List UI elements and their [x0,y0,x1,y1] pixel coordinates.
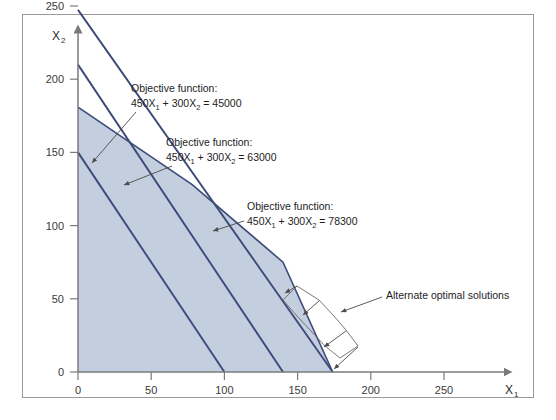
obj63000-c: = 63000 [235,151,276,163]
y-tick-label-250: 250 [46,0,64,12]
obj63000-line1: Objective function: [166,136,252,148]
x-axis-title-main: X [505,383,513,397]
figure-container: 0 50 100 150 200 250 0 50 100 150 200 25… [0,0,556,420]
obj45000-c: = 45000 [200,97,241,109]
obj78300-c: = 78300 [316,215,357,227]
y-axis-title-main: X [52,29,60,43]
y-tick-label-0: 0 [58,366,64,378]
x-tick-label-200: 200 [362,384,380,396]
obj78300-line1: Objective function: [247,200,333,212]
alternate-arrow-2 [303,301,319,315]
linear-programming-chart: 0 50 100 150 200 250 0 50 100 150 200 25… [0,0,556,420]
alternate-arrow-3 [324,331,346,347]
x-axis-title-sub: 1 [514,390,519,399]
y-tick-label-50: 50 [52,293,64,305]
y-tick-label-200: 200 [46,73,64,85]
obj78300-a: 450X [247,215,272,227]
x-tick-label-150: 150 [288,384,306,396]
obj45000-line1: Objective function: [131,82,217,94]
y-axis-title: X 2 [52,29,66,45]
y-tick-label-150: 150 [46,146,64,158]
alternate-optimal-label: Alternate optimal solutions [386,289,509,301]
x-tick-label-50: 50 [145,384,157,396]
obj63000-b: + 300X [195,151,232,163]
x-tick-label-250: 250 [435,384,453,396]
x-tick-label-100: 100 [215,384,233,396]
y-tick-label-100: 100 [46,220,64,232]
obj78300-line2: 450X1 + 300X2 = 78300 [247,215,358,230]
obj45000-b: + 300X [160,97,197,109]
obj45000-a: 450X [131,97,156,109]
obj78300-b: + 300X [276,215,313,227]
x-axis-title: X 1 [505,383,519,399]
obj63000-a: 450X [166,151,191,163]
obj63000-line2: 450X1 + 300X2 = 63000 [166,151,277,166]
alternate-label-leader [341,297,382,312]
y-axis-title-sub: 2 [61,36,66,45]
x-tick-label-0: 0 [75,384,81,396]
alternate-arrow-4 [334,347,358,369]
